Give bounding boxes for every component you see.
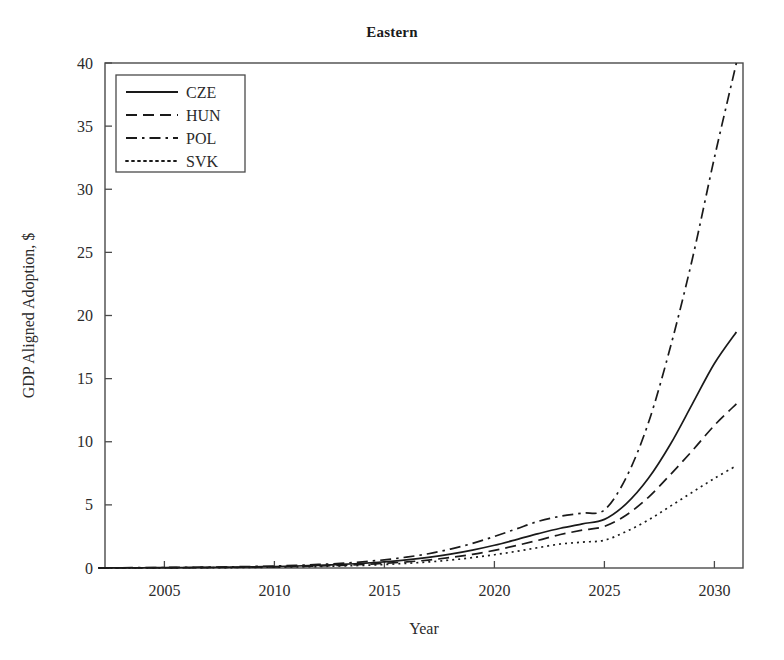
legend-label-pol: POL bbox=[186, 130, 216, 147]
line-chart-plot: 0510152025303540200520102015202020252030… bbox=[0, 0, 784, 660]
legend-label-svk: SVK bbox=[186, 153, 218, 170]
y-tick-label: 5 bbox=[85, 496, 93, 513]
y-tick-label: 30 bbox=[77, 181, 93, 198]
y-axis-title: GDP Aligned Adoption, $ bbox=[20, 233, 38, 399]
x-tick-label: 2030 bbox=[698, 582, 730, 599]
x-tick-label: 2020 bbox=[478, 582, 510, 599]
y-tick-label: 20 bbox=[77, 307, 93, 324]
x-tick-label: 2005 bbox=[148, 582, 180, 599]
y-tick-label: 15 bbox=[77, 370, 93, 387]
y-tick-label: 0 bbox=[85, 560, 93, 577]
legend-label-hun: HUN bbox=[186, 107, 221, 124]
x-tick-label: 2015 bbox=[368, 582, 400, 599]
series-line-svk bbox=[98, 466, 736, 568]
x-axis-title: Year bbox=[409, 620, 439, 637]
x-tick-label: 2025 bbox=[588, 582, 620, 599]
series-line-cze bbox=[98, 332, 736, 568]
x-tick-label: 2010 bbox=[258, 582, 290, 599]
y-tick-label: 10 bbox=[77, 433, 93, 450]
y-tick-label: 40 bbox=[77, 55, 93, 72]
legend-group: CZEHUNPOLSVK bbox=[116, 75, 245, 172]
legend-box bbox=[116, 75, 245, 172]
series-line-hun bbox=[98, 404, 736, 568]
legend-label-cze: CZE bbox=[186, 84, 216, 101]
y-tick-label: 25 bbox=[77, 244, 93, 261]
chart-figure: Eastern 05101520253035402005201020152020… bbox=[0, 0, 784, 660]
y-tick-label: 35 bbox=[77, 118, 93, 135]
